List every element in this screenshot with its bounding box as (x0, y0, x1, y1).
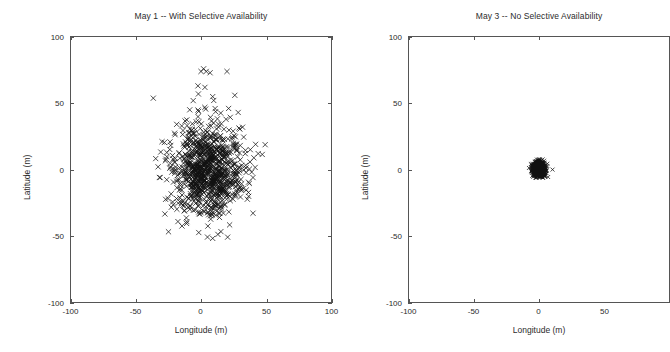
yaxis-title-left: Latitude (m) (22, 155, 32, 200)
xtick-right-top-0 (539, 36, 540, 40)
xticklabel-left-2: 0 (181, 307, 221, 316)
xtick-left-top-50 (267, 36, 268, 40)
axes-left (70, 36, 332, 303)
axes-right (408, 36, 670, 303)
ytick-right-n50 (408, 236, 412, 237)
xaxis-title-left: Longitude (m) (70, 325, 332, 335)
xtick-left-top-n50 (136, 36, 137, 40)
yticklabel-right-3: -50 (372, 232, 402, 241)
xtick-left-100 (332, 299, 333, 303)
xtick-right-top-n50 (474, 36, 475, 40)
plot-panel-left: May 1 -- With Selective Availability 100… (0, 0, 348, 352)
xticklabel-right-1: -50 (454, 307, 494, 316)
yticklabel-right-2: 0 (372, 165, 402, 174)
ytick-left-n50 (70, 236, 74, 237)
xticklabel-right-3: 50 (585, 307, 625, 316)
xtick-left-top-100 (332, 36, 333, 40)
ytick-left-mirror-0 (328, 170, 332, 171)
yaxis-title-right: Latitude (m) (360, 155, 370, 200)
yticklabel-left-0: 100 (34, 32, 64, 41)
scatter-markers (527, 157, 555, 180)
ytick-left-mirror-50 (328, 103, 332, 104)
xtick-left-n100 (71, 299, 72, 303)
xtick-left-50 (267, 299, 268, 303)
xtick-right-0 (539, 299, 540, 303)
scatter-markers (151, 66, 268, 241)
yticklabel-right-4: -100 (372, 298, 402, 307)
xticklabel-left-1: -50 (116, 307, 156, 316)
plot-title-left: May 1 -- With Selective Availability (70, 11, 332, 21)
yticklabel-left-4: -100 (34, 298, 64, 307)
ytick-left-0 (70, 170, 74, 171)
yticklabel-left-1: 50 (34, 99, 64, 108)
ytick-right-50 (408, 103, 412, 104)
plot-title-right: May 3 -- No Selective Availability (408, 11, 670, 21)
xticklabel-left-3: 50 (247, 307, 287, 316)
yticklabel-right-0: 100 (372, 32, 402, 41)
xtick-left-n50 (136, 299, 137, 303)
plot-area-left (71, 37, 331, 302)
yticklabel-right-1: 50 (372, 99, 402, 108)
scatter-layer-right (409, 37, 669, 302)
yticklabel-left-3: -50 (34, 232, 64, 241)
xticklabel-right-2: 0 (519, 307, 559, 316)
ytick-left-50 (70, 103, 74, 104)
scatter-layer-left (71, 37, 331, 302)
yticklabel-left-2: 0 (34, 165, 64, 174)
xtick-right-n50 (474, 299, 475, 303)
xtick-right-top-n100 (409, 36, 410, 40)
xtick-left-0 (201, 299, 202, 303)
plot-area-right (409, 37, 669, 302)
xticklabel-right-0: -100 (389, 307, 429, 316)
xticklabel-left-0: -100 (51, 307, 91, 316)
xtick-left-top-0 (201, 36, 202, 40)
xaxis-title-right: Longitude (m) (408, 325, 670, 335)
ytick-right-0 (408, 170, 412, 171)
xtick-right-n100 (409, 299, 410, 303)
ytick-left-mirror-n50 (328, 236, 332, 237)
xtick-left-top-n100 (71, 36, 72, 40)
